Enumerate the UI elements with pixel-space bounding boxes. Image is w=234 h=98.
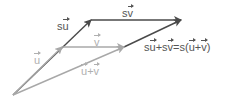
label-u-plus-v: u+v [81,66,99,77]
label-sv: sv [122,8,133,19]
label-u: u [34,55,40,66]
vector-u-plus-v-arrow [13,47,124,95]
label-su: su [57,21,69,32]
label-v: v [94,37,100,48]
vector-diagram: su sv v u u+v su+sv=s(u+v) [0,0,234,98]
label-distributive-identity: su+sv=s(u+v) [144,42,210,53]
